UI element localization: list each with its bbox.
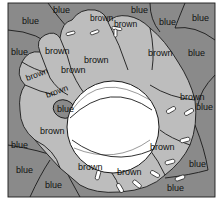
- region-label: brown: [40, 126, 65, 136]
- region-label: blue: [57, 104, 74, 114]
- region-label: blue: [11, 140, 28, 150]
- region-label: brown: [117, 167, 142, 177]
- region-label: blue: [188, 48, 205, 58]
- region-label: blue: [167, 183, 184, 193]
- region-label: blue: [16, 165, 33, 175]
- region-label: brown: [61, 65, 86, 75]
- baseball: [67, 81, 159, 173]
- region-label: blue: [11, 47, 28, 57]
- region-label: blue: [192, 13, 209, 23]
- region-label: brown: [45, 46, 70, 56]
- region-label: brown: [180, 92, 205, 102]
- color-by-word-puzzle: blue blue brown brown blue blue blue blu…: [0, 0, 220, 207]
- region-label: brown: [84, 55, 109, 65]
- region-label: blue: [196, 102, 213, 112]
- region-label: brown: [148, 48, 173, 58]
- region-label: blue: [159, 17, 176, 27]
- region-label: brown: [90, 13, 113, 23]
- region-label: blue: [45, 180, 62, 190]
- region-label: brown: [78, 162, 103, 172]
- region-label: brown: [114, 19, 137, 29]
- region-label: blue: [53, 5, 70, 15]
- region-label: blue: [131, 5, 148, 15]
- region-label: brown: [150, 142, 175, 152]
- region-label: blue: [189, 159, 206, 169]
- region-label: blue: [22, 16, 39, 26]
